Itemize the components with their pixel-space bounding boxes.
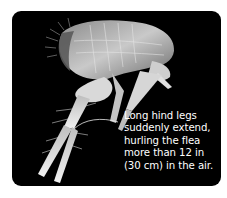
caption-line: more than 12 in bbox=[124, 147, 219, 159]
caption-line: Long hind legs bbox=[124, 110, 219, 122]
caption-line: (30 cm) in the air. bbox=[124, 160, 219, 172]
caption-line: hurling the flea bbox=[124, 135, 219, 147]
caption-line: suddenly extend, bbox=[124, 122, 219, 134]
caption: Long hind legs suddenly extend, hurling … bbox=[124, 110, 219, 172]
image-panel: Long hind legs suddenly extend, hurling … bbox=[12, 11, 221, 186]
